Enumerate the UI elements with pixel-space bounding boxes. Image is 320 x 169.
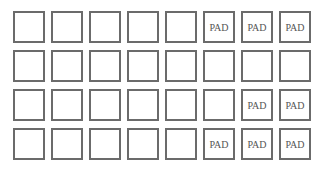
empty-cell[interactable] [165,89,197,121]
empty-cell[interactable] [203,50,235,82]
pad-cell[interactable]: PAD [203,128,235,160]
pad-cell[interactable]: PAD [279,128,311,160]
empty-cell[interactable] [13,50,45,82]
empty-cell[interactable] [165,11,197,43]
pad-cell[interactable]: PAD [241,128,273,160]
empty-cell[interactable] [127,89,159,121]
empty-cell[interactable] [127,128,159,160]
empty-cell[interactable] [13,11,45,43]
pad-cell[interactable]: PAD [241,11,273,43]
pad-cell[interactable]: PAD [241,89,273,121]
empty-cell[interactable] [89,89,121,121]
empty-cell[interactable] [241,50,273,82]
empty-cell[interactable] [51,128,83,160]
empty-cell[interactable] [13,89,45,121]
pad-grid: PADPADPADPADPADPADPADPAD [13,11,311,160]
pad-cell[interactable]: PAD [279,89,311,121]
empty-cell[interactable] [89,50,121,82]
empty-cell[interactable] [127,11,159,43]
empty-cell[interactable] [51,89,83,121]
empty-cell[interactable] [165,50,197,82]
empty-cell[interactable] [127,50,159,82]
pad-cell[interactable]: PAD [279,11,311,43]
empty-cell[interactable] [51,50,83,82]
empty-cell[interactable] [165,128,197,160]
empty-cell[interactable] [279,50,311,82]
empty-cell[interactable] [89,128,121,160]
empty-cell[interactable] [203,89,235,121]
empty-cell[interactable] [89,11,121,43]
empty-cell[interactable] [13,128,45,160]
empty-cell[interactable] [51,11,83,43]
pad-cell[interactable]: PAD [203,11,235,43]
